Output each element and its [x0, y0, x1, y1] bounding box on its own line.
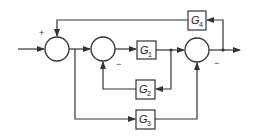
output-to-g4-arrow: [207, 20, 223, 50]
block-g2: G 2: [136, 80, 155, 99]
summing-junction-1: [45, 37, 69, 61]
g1-to-g2-arrow: [156, 50, 171, 89]
summing-junction-3: [185, 38, 209, 62]
summing-junction-2: [91, 37, 115, 61]
s2-minus-sign: −: [116, 59, 121, 69]
g1-subscript: 1: [148, 51, 152, 58]
g4-subscript: 4: [199, 21, 203, 28]
block-g1: G 1: [137, 41, 156, 59]
block-diagram: + − G 1 G 2 G 3 − G 4: [0, 0, 253, 140]
g3-to-s3-arrow: [155, 63, 197, 119]
g3-subscript: 3: [147, 120, 151, 127]
s1-plus-sign: +: [39, 28, 44, 38]
block-g3: G 3: [136, 110, 155, 129]
g2-subscript: 2: [147, 90, 151, 97]
s3-minus-sign: −: [214, 58, 219, 68]
g4-to-s1-arrow: [57, 20, 188, 36]
block-g4: G 4: [188, 11, 206, 30]
